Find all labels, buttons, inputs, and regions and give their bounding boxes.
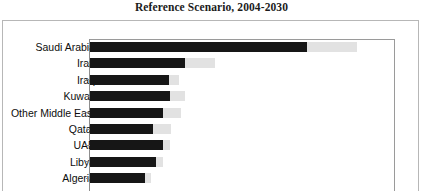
bar-row: Iraq <box>0 72 423 88</box>
bar-row: Libya <box>0 154 423 170</box>
bar-row-label: Libya <box>0 154 95 170</box>
bar-segment-2004 <box>90 157 156 167</box>
bar-row: Other Middle East <box>0 105 423 121</box>
bar-segment-2004 <box>90 124 153 134</box>
bar-row: Kuwait <box>0 88 423 104</box>
bar-segment-increase-2030 <box>156 157 163 167</box>
stacked-bar <box>90 157 163 167</box>
bar-segment-2004 <box>90 42 307 52</box>
bar-row-label: Saudi Arabia <box>0 39 95 55</box>
bar-segment-increase-2030 <box>170 91 185 101</box>
bar-segment-2004 <box>90 58 185 68</box>
bar-row-label: UAE <box>0 137 95 153</box>
bar-row: Qatar <box>0 121 423 137</box>
bar-segment-2004 <box>90 108 163 118</box>
bar-row-label: Iraq <box>0 72 95 88</box>
bar-rows: Saudi ArabiaIranIraqKuwaitOther Middle E… <box>0 39 423 191</box>
bar-row-label: Qatar <box>0 121 95 137</box>
bar-row-label: Kuwait <box>0 88 95 104</box>
bar-row-label: Other Middle East <box>0 105 95 121</box>
bar-segment-increase-2030 <box>163 140 170 150</box>
stacked-bar <box>90 91 185 101</box>
bar-row: Iran <box>0 55 423 71</box>
stacked-bar <box>90 140 170 150</box>
chart-screenshot: Reference Scenario, 2004-2030 Saudi Arab… <box>0 0 423 191</box>
bar-segment-increase-2030 <box>307 42 357 52</box>
bar-segment-2004 <box>90 173 145 183</box>
chart-title: Reference Scenario, 2004-2030 <box>0 1 423 13</box>
stacked-bar <box>90 58 215 68</box>
bar-segment-2004 <box>90 140 163 150</box>
bar-row: Algeria <box>0 170 423 186</box>
bar-row: Saudi Arabia <box>0 39 423 55</box>
bar-segment-increase-2030 <box>153 124 171 134</box>
bar-segment-2004 <box>90 75 169 85</box>
bar-segment-increase-2030 <box>163 108 181 118</box>
bar-segment-increase-2030 <box>169 75 179 85</box>
bar-row-label: Iran <box>0 55 95 71</box>
bar-segment-increase-2030 <box>185 58 215 68</box>
bar-row: UAE <box>0 137 423 153</box>
stacked-bar <box>90 108 181 118</box>
stacked-bar <box>90 75 179 85</box>
stacked-bar <box>90 173 151 183</box>
bar-row-label: Algeria <box>0 170 95 186</box>
stacked-bar <box>90 42 357 52</box>
stacked-bar <box>90 124 171 134</box>
bar-segment-increase-2030 <box>145 173 151 183</box>
bar-segment-2004 <box>90 91 170 101</box>
